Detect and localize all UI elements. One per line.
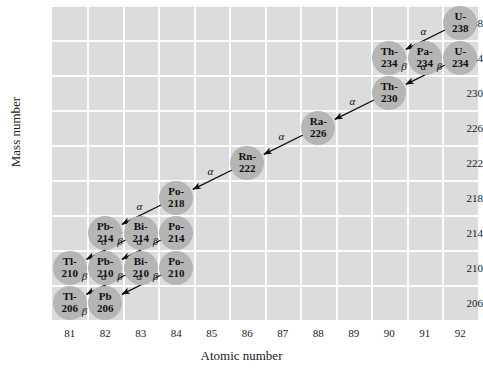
nuclide-mass: 230 [381,93,398,105]
decay-label-beta: β [153,235,158,247]
x-tick-label: 92 [442,328,478,339]
nuclide-symbol: Bi- [134,256,148,268]
nuclide-symbol: Po- [168,256,184,268]
decay-label-beta: β [117,270,122,282]
x-tick-label: 81 [52,328,88,339]
decay-label-alpha: α [136,235,142,247]
x-tick-label: 89 [336,328,372,339]
x-tick-label: 84 [158,328,194,339]
x-tick-label: 86 [229,328,265,339]
nuclide-symbol: Ra- [310,116,327,128]
nuclide-node[interactable]: Rn-222 [230,146,264,180]
plot-area: U-238Th-234Pa-234U-234Th-230Ra-226Rn-222… [52,5,478,320]
nuclide-node[interactable]: Po-218 [159,181,193,215]
nuclide-mass: 206 [62,303,79,315]
decay-label-beta: β [82,270,87,282]
nuclide-symbol: U- [454,46,466,58]
nuclide-symbol: Tl- [63,291,77,303]
nuclide-mass: 238 [452,23,469,35]
nuclide-symbol: Po- [168,221,184,233]
decay-label-alpha: α [101,270,107,282]
nuclide-node[interactable]: U-238 [443,6,477,40]
nuclide-node[interactable]: Th-230 [372,76,406,110]
decay-label-beta: β [401,60,406,72]
decay-label-beta: β [117,235,122,247]
x-tick-label: 82 [87,328,123,339]
x-axis-title: Atomic number [0,348,483,364]
decay-label-alpha: α [420,60,426,72]
decay-label-beta: β [153,270,158,282]
nuclide-mass: 206 [97,303,114,315]
nuclide-mass: 214 [168,233,185,245]
x-tick-label: 88 [300,328,336,339]
decay-chain-chart: U-238Th-234Pa-234U-234Th-230Ra-226Rn-222… [0,0,483,369]
x-tick-label: 91 [407,328,443,339]
nuclide-symbol: Pb- [97,221,114,233]
nuclide-symbol: Th- [381,46,398,58]
nuclide-symbol: Pa- [417,46,433,58]
nuclide-mass: 222 [239,163,256,175]
nuclide-symbol: Bi- [134,221,148,233]
nuclide-mass: 226 [310,128,327,140]
decay-label-beta: β [437,60,442,72]
x-tick-label: 83 [123,328,159,339]
nuclide-mass: 210 [168,268,185,280]
nuclide-mass: 234 [381,58,398,70]
nuclide-mass: 210 [62,268,79,280]
nuclide-mass: 234 [452,58,469,70]
decay-label-alpha: α [136,270,142,282]
decay-label-alpha: α [278,130,284,142]
nuclide-symbol: Th- [381,81,398,93]
nuclide-node[interactable]: Po-210 [159,251,193,285]
nuclide-node[interactable]: Pb206 [88,286,122,320]
nuclide-symbol: Po- [168,186,184,198]
x-tick-label: 85 [194,328,230,339]
nuclide-symbol: Pb- [97,256,114,268]
x-tick-label: 87 [265,328,301,339]
x-tick-label: 90 [371,328,407,339]
nuclide-symbol: U- [454,11,466,23]
decay-label-alpha: α [207,165,213,177]
nuclide-node[interactable]: Po-214 [159,216,193,250]
y-axis-title: Mass number [8,62,24,202]
nuclide-mass: 218 [168,198,185,210]
decay-label-alpha: α [136,200,142,212]
nuclide-symbol: Rn- [238,151,256,163]
decay-label-alpha: α [420,25,426,37]
decay-label-alpha: α [101,235,107,247]
decay-label-beta: β [82,305,87,317]
decay-label-alpha: α [349,95,355,107]
nuclide-symbol: Pb [99,291,112,303]
nuclide-node[interactable]: Ra-226 [301,111,335,145]
nuclide-node[interactable]: U-234 [443,41,477,75]
nuclide-symbol: Tl- [63,256,77,268]
